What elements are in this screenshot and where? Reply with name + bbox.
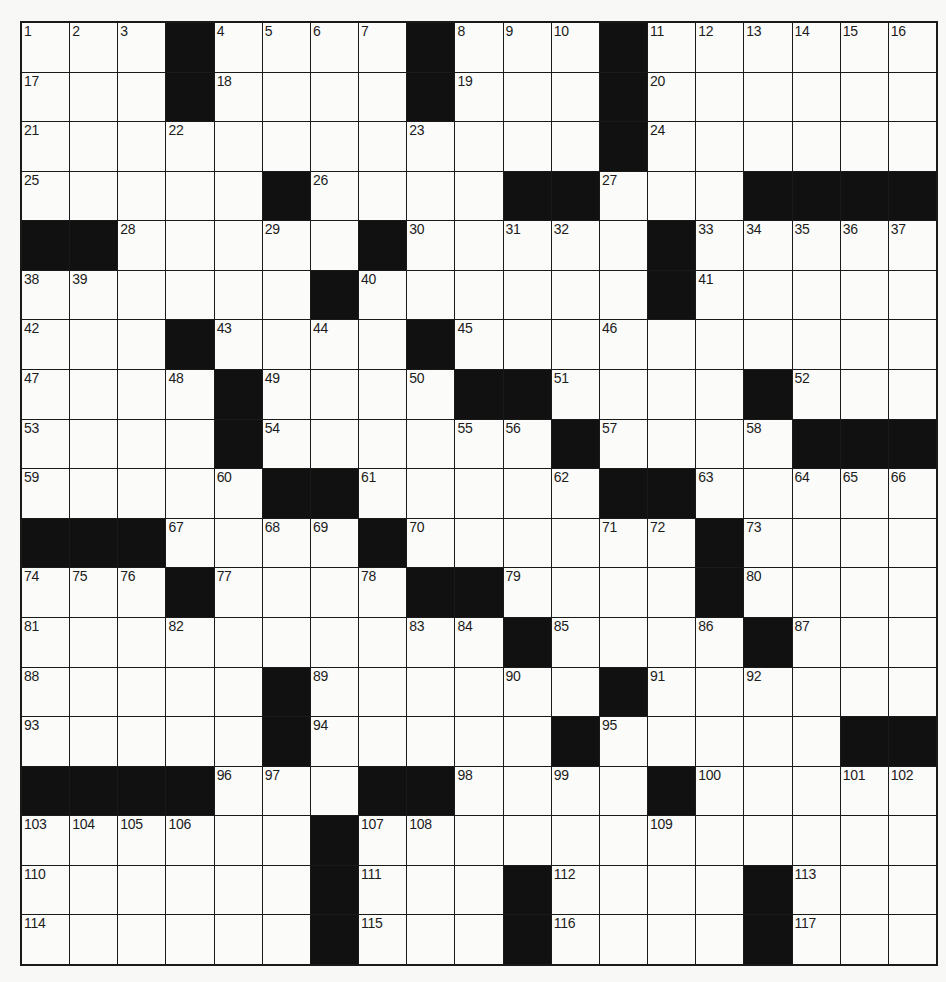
- grid-cell[interactable]: [552, 73, 599, 122]
- grid-cell[interactable]: [552, 668, 599, 717]
- grid-cell[interactable]: [118, 122, 165, 171]
- grid-cell[interactable]: 45: [455, 320, 502, 369]
- grid-cell[interactable]: [215, 519, 262, 568]
- grid-cell[interactable]: [648, 320, 695, 369]
- grid-cell[interactable]: 3: [118, 23, 165, 72]
- grid-cell[interactable]: [118, 717, 165, 766]
- grid-cell[interactable]: [841, 866, 888, 915]
- grid-cell[interactable]: [359, 73, 406, 122]
- grid-cell[interactable]: [166, 717, 213, 766]
- grid-cell[interactable]: [70, 420, 117, 469]
- grid-cell[interactable]: 65: [841, 469, 888, 518]
- grid-cell[interactable]: 15: [841, 23, 888, 72]
- grid-cell[interactable]: 40: [359, 271, 406, 320]
- grid-cell[interactable]: 104: [70, 816, 117, 865]
- grid-cell[interactable]: 80: [744, 568, 791, 617]
- grid-cell[interactable]: [600, 221, 647, 270]
- grid-cell[interactable]: 13: [744, 23, 791, 72]
- grid-cell[interactable]: [648, 866, 695, 915]
- grid-cell[interactable]: [70, 618, 117, 667]
- grid-cell[interactable]: [359, 668, 406, 717]
- grid-cell[interactable]: [793, 73, 840, 122]
- grid-cell[interactable]: 97: [263, 767, 310, 816]
- grid-cell[interactable]: 14: [793, 23, 840, 72]
- grid-cell[interactable]: 9: [504, 23, 551, 72]
- grid-cell[interactable]: [793, 568, 840, 617]
- grid-cell[interactable]: [504, 519, 551, 568]
- grid-cell[interactable]: [648, 717, 695, 766]
- grid-cell[interactable]: [696, 668, 743, 717]
- grid-cell[interactable]: 17: [22, 73, 69, 122]
- grid-cell[interactable]: 49: [263, 370, 310, 419]
- grid-cell[interactable]: [407, 668, 454, 717]
- grid-cell[interactable]: [504, 469, 551, 518]
- grid-cell[interactable]: 1: [22, 23, 69, 72]
- grid-cell[interactable]: [793, 668, 840, 717]
- grid-cell[interactable]: 32: [552, 221, 599, 270]
- grid-cell[interactable]: [841, 122, 888, 171]
- grid-cell[interactable]: [841, 816, 888, 865]
- grid-cell[interactable]: [648, 370, 695, 419]
- grid-cell[interactable]: 8: [455, 23, 502, 72]
- grid-cell[interactable]: [215, 668, 262, 717]
- grid-cell[interactable]: 99: [552, 767, 599, 816]
- grid-cell[interactable]: 36: [841, 221, 888, 270]
- grid-cell[interactable]: 10: [552, 23, 599, 72]
- grid-cell[interactable]: 88: [22, 668, 69, 717]
- grid-cell[interactable]: [263, 122, 310, 171]
- grid-cell[interactable]: 85: [552, 618, 599, 667]
- grid-cell[interactable]: [841, 915, 888, 964]
- grid-cell[interactable]: [600, 370, 647, 419]
- grid-cell[interactable]: [504, 717, 551, 766]
- grid-cell[interactable]: [600, 866, 647, 915]
- grid-cell[interactable]: [263, 866, 310, 915]
- grid-cell[interactable]: 37: [889, 221, 936, 270]
- grid-cell[interactable]: [215, 172, 262, 221]
- grid-cell[interactable]: [841, 271, 888, 320]
- grid-cell[interactable]: 31: [504, 221, 551, 270]
- grid-cell[interactable]: [793, 767, 840, 816]
- grid-cell[interactable]: 34: [744, 221, 791, 270]
- grid-cell[interactable]: 114: [22, 915, 69, 964]
- grid-cell[interactable]: 73: [744, 519, 791, 568]
- grid-cell[interactable]: [166, 172, 213, 221]
- grid-cell[interactable]: [215, 122, 262, 171]
- grid-cell[interactable]: [118, 469, 165, 518]
- grid-cell[interactable]: [841, 370, 888, 419]
- grid-cell[interactable]: [166, 915, 213, 964]
- grid-cell[interactable]: [70, 172, 117, 221]
- grid-cell[interactable]: [359, 370, 406, 419]
- grid-cell[interactable]: [263, 915, 310, 964]
- grid-cell[interactable]: [311, 420, 358, 469]
- grid-cell[interactable]: 5: [263, 23, 310, 72]
- grid-cell[interactable]: [600, 271, 647, 320]
- grid-cell[interactable]: [504, 271, 551, 320]
- grid-cell[interactable]: [552, 568, 599, 617]
- grid-cell[interactable]: 43: [215, 320, 262, 369]
- grid-cell[interactable]: [744, 717, 791, 766]
- grid-cell[interactable]: [311, 767, 358, 816]
- grid-cell[interactable]: 75: [70, 568, 117, 617]
- grid-cell[interactable]: 21: [22, 122, 69, 171]
- grid-cell[interactable]: 50: [407, 370, 454, 419]
- grid-cell[interactable]: [407, 866, 454, 915]
- grid-cell[interactable]: [70, 122, 117, 171]
- grid-cell[interactable]: 113: [793, 866, 840, 915]
- grid-cell[interactable]: [166, 668, 213, 717]
- grid-cell[interactable]: [118, 915, 165, 964]
- grid-cell[interactable]: [118, 420, 165, 469]
- grid-cell[interactable]: [744, 816, 791, 865]
- grid-cell[interactable]: [600, 816, 647, 865]
- grid-cell[interactable]: [166, 221, 213, 270]
- grid-cell[interactable]: [166, 271, 213, 320]
- grid-cell[interactable]: [455, 519, 502, 568]
- grid-cell[interactable]: [504, 816, 551, 865]
- grid-cell[interactable]: [263, 816, 310, 865]
- grid-cell[interactable]: [889, 320, 936, 369]
- grid-cell[interactable]: [504, 320, 551, 369]
- grid-cell[interactable]: 58: [744, 420, 791, 469]
- grid-cell[interactable]: [696, 122, 743, 171]
- grid-cell[interactable]: [841, 618, 888, 667]
- grid-cell[interactable]: 78: [359, 568, 406, 617]
- grid-cell[interactable]: [504, 73, 551, 122]
